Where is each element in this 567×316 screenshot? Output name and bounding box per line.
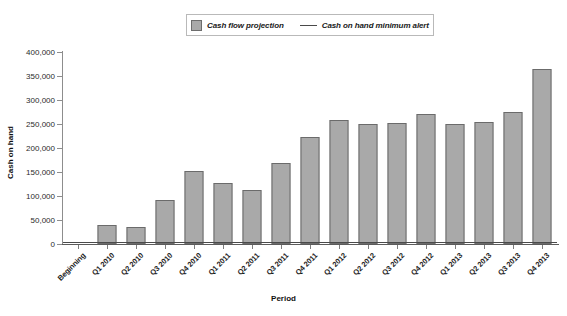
x-axis-tick-mark	[223, 245, 224, 249]
bar[interactable]	[359, 124, 378, 244]
x-axis-tick-label: Q4 2013	[526, 251, 552, 277]
x-axis-tick-label: Q3 2012	[380, 251, 406, 277]
x-axis-tick-mark	[455, 245, 456, 249]
bar[interactable]	[271, 163, 290, 244]
legend-entry-cash-flow-projection: Cash flow projection	[191, 20, 284, 31]
bar[interactable]	[330, 120, 349, 244]
y-axis-tick-label: 250,000	[26, 120, 55, 129]
y-axis-tick-label: 150,000	[26, 168, 55, 177]
y-axis-tick-label: 50,000	[31, 216, 55, 225]
bar[interactable]	[504, 112, 523, 244]
y-axis-tick-label: 0	[51, 240, 55, 249]
bar-slot	[354, 52, 383, 244]
x-axis-tick-labels: BeginningQ1 2010Q2 2010Q3 2010Q4 2010Q1 …	[63, 245, 557, 293]
x-axis-tick-label: Q1 2013	[438, 251, 464, 277]
x-axis-tick-mark	[397, 245, 398, 249]
x-axis-tick-mark	[513, 245, 514, 249]
bar-slot	[266, 52, 295, 244]
bar-slot	[441, 52, 470, 244]
x-axis-tick-label: Beginning	[55, 251, 87, 283]
bar[interactable]	[475, 122, 494, 244]
y-axis-tick-label: 350,000	[26, 72, 55, 81]
legend-label-cash-on-hand-minimum-alert: Cash on hand minimum alert	[322, 21, 429, 30]
x-axis-tick-label: Q4 2010	[177, 251, 203, 277]
x-axis-tick-label: Q2 2010	[119, 251, 145, 277]
x-axis-tick-mark	[252, 245, 253, 249]
minimum-alert-line	[63, 242, 557, 244]
legend-entry-cash-on-hand-minimum-alert: Cash on hand minimum alert	[300, 21, 429, 30]
x-axis-tick-mark	[78, 245, 79, 249]
y-axis-tick-mark	[57, 172, 62, 173]
bar[interactable]	[300, 137, 319, 244]
bar-slot	[179, 52, 208, 244]
bar-slot	[121, 52, 150, 244]
bar-slot	[237, 52, 266, 244]
chart-legend: Cash flow projection Cash on hand minimu…	[186, 14, 434, 36]
y-axis-tick-mark	[57, 148, 62, 149]
x-axis-tick-label: Q1 2011	[206, 251, 232, 277]
y-axis-tick-label: 400,000	[26, 48, 55, 57]
x-axis-tick-mark	[194, 245, 195, 249]
bar-slot	[208, 52, 237, 244]
x-axis-tick-label: Q1 2012	[322, 251, 348, 277]
bar-slot	[325, 52, 354, 244]
y-axis-tick-label: 100,000	[26, 192, 55, 201]
bar[interactable]	[417, 114, 436, 244]
x-axis-tick-label: Q3 2013	[497, 251, 523, 277]
x-axis-tick-label: Q2 2012	[351, 251, 377, 277]
bar-slot	[383, 52, 412, 244]
x-axis-tick-label: Q4 2012	[409, 251, 435, 277]
x-axis-tick-label: Q2 2013	[467, 251, 493, 277]
bar-slot	[150, 52, 179, 244]
x-axis-title: Period	[0, 294, 567, 303]
x-axis-tick-mark	[281, 245, 282, 249]
bar[interactable]	[388, 123, 407, 244]
bar[interactable]	[184, 171, 203, 244]
bar-slot	[528, 52, 557, 244]
x-axis-tick-label: Q3 2011	[264, 251, 290, 277]
y-axis-tick-label: 200,000	[26, 144, 55, 153]
bar[interactable]	[533, 69, 552, 244]
x-axis-tick-mark	[339, 245, 340, 249]
bar-slot	[63, 52, 92, 244]
y-axis-tick-mark	[57, 244, 62, 245]
y-axis-tick-mark	[57, 76, 62, 77]
x-axis-tick-mark	[165, 245, 166, 249]
x-axis-tick-mark	[136, 245, 137, 249]
x-axis-tick-mark	[542, 245, 543, 249]
line-swatch-icon	[300, 25, 317, 26]
legend-label-cash-flow-projection: Cash flow projection	[207, 21, 284, 30]
bar[interactable]	[242, 190, 261, 244]
x-axis-tick-label: Q1 2010	[90, 251, 116, 277]
x-axis-tick-mark	[426, 245, 427, 249]
bar-swatch-icon	[191, 20, 202, 31]
bar[interactable]	[446, 124, 465, 244]
bars-layer	[63, 52, 557, 244]
y-axis-tick-label: 300,000	[26, 96, 55, 105]
y-axis-tick-mark	[57, 52, 62, 53]
y-axis-tick-mark	[57, 220, 62, 221]
x-axis-tick-label: Q3 2010	[148, 251, 174, 277]
x-axis-tick-label: Q4 2011	[293, 251, 319, 277]
y-axis-tick-labels: 050,000100,000150,000200,000250,000300,0…	[0, 52, 55, 244]
x-axis-tick-mark	[310, 245, 311, 249]
bar-slot	[470, 52, 499, 244]
x-axis-tick-mark	[484, 245, 485, 249]
y-axis-tick-mark	[57, 196, 62, 197]
bar-slot	[295, 52, 324, 244]
bar[interactable]	[155, 200, 174, 244]
bar-slot	[92, 52, 121, 244]
y-axis-tick-mark	[57, 100, 62, 101]
x-axis-tick-mark	[107, 245, 108, 249]
x-axis-tick-mark	[368, 245, 369, 249]
bar[interactable]	[213, 183, 232, 244]
y-axis-tick-mark	[57, 124, 62, 125]
bar-slot	[412, 52, 441, 244]
x-axis-tick-label: Q2 2011	[235, 251, 261, 277]
bar-slot	[499, 52, 528, 244]
